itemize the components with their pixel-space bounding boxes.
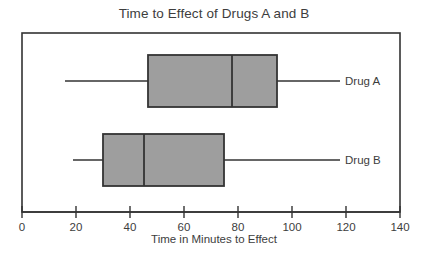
chart-root: Time to Effect of Drugs A and B Drug A D… — [0, 0, 428, 257]
x-tick-label-40: 40 — [124, 221, 137, 233]
x-tick-label-100: 100 — [282, 221, 301, 233]
series-label-drug-a: Drug A — [345, 75, 380, 87]
x-tick-label-20: 20 — [70, 221, 83, 233]
x-tick-label-60: 60 — [178, 221, 191, 233]
x-tick-label-80: 80 — [232, 221, 245, 233]
x-tick-label-120: 120 — [336, 221, 355, 233]
boxplot-series-drug-a: Drug A — [65, 55, 380, 107]
box-drug-b — [103, 134, 224, 186]
x-axis: 0 20 40 60 80 100 120 140 — [19, 206, 410, 233]
boxplot-canvas: Drug A Drug B 0 20 40 60 — [0, 0, 428, 257]
boxplot-series-drug-b: Drug B — [73, 134, 381, 186]
x-axis-title: Time in Minutes to Effect — [0, 233, 428, 245]
x-tick-label-0: 0 — [19, 221, 25, 233]
series-label-drug-b: Drug B — [345, 154, 381, 166]
x-tick-label-140: 140 — [390, 221, 409, 233]
box-drug-a — [148, 55, 277, 107]
